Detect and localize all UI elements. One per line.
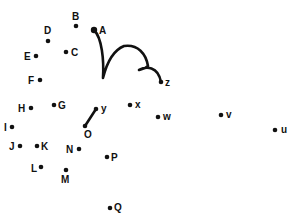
dot-label: E	[24, 51, 31, 62]
dot-u[interactable]: u	[273, 124, 287, 135]
dot-O[interactable]: O	[83, 124, 92, 140]
dot-marker[interactable]	[34, 54, 39, 59]
dot-marker[interactable]	[128, 103, 133, 108]
dot-puzzle-canvas: ABCDEFGHIJKLMNOPQxywvuz	[0, 0, 303, 221]
dot-marker[interactable]	[105, 155, 110, 160]
dot-marker[interactable]	[156, 115, 161, 120]
dot-marker[interactable]	[159, 80, 164, 85]
dot-marker[interactable]	[18, 144, 23, 149]
dot-marker[interactable]	[91, 27, 97, 33]
dot-label: G	[58, 100, 66, 111]
dot-label: N	[66, 144, 73, 155]
dot-label: w	[162, 111, 171, 122]
drawn-lines	[85, 30, 161, 126]
dot-G[interactable]: G	[52, 100, 66, 111]
dot-label: O	[84, 129, 92, 140]
dot-label: K	[41, 141, 49, 152]
dot-B[interactable]: B	[72, 11, 79, 28]
dot-marker[interactable]	[35, 144, 40, 149]
dot-L[interactable]: L	[31, 163, 43, 174]
dot-A[interactable]: A	[91, 25, 106, 36]
dot-marker[interactable]	[83, 124, 88, 129]
dot-M[interactable]: M	[61, 168, 69, 185]
dot-label: M	[61, 174, 69, 185]
dot-label: v	[226, 109, 232, 120]
dot-label: B	[72, 11, 79, 22]
drawn-line-y-O	[85, 109, 96, 126]
dot-marker[interactable]	[94, 107, 99, 112]
puzzle-dots: ABCDEFGHIJKLMNOPQxywvuz	[4, 11, 287, 213]
dot-D[interactable]: D	[44, 25, 51, 43]
dot-marker[interactable]	[273, 128, 278, 133]
dot-marker[interactable]	[64, 168, 69, 173]
dot-v[interactable]: v	[219, 109, 232, 120]
dot-x[interactable]: x	[128, 99, 141, 110]
dot-label: H	[18, 103, 25, 114]
dot-marker[interactable]	[39, 165, 44, 170]
dot-J[interactable]: J	[9, 141, 22, 152]
dot-marker[interactable]	[52, 103, 57, 108]
dot-marker[interactable]	[29, 106, 34, 111]
dot-P[interactable]: P	[105, 152, 118, 163]
dot-label: x	[135, 99, 141, 110]
dot-Q[interactable]: Q	[108, 202, 122, 213]
dot-marker[interactable]	[46, 39, 51, 44]
dot-label: J	[9, 141, 15, 152]
dot-w[interactable]: w	[156, 111, 171, 122]
dot-label: y	[101, 103, 107, 114]
dot-marker[interactable]	[10, 125, 15, 130]
dot-marker[interactable]	[219, 113, 224, 118]
dot-label: L	[31, 163, 37, 174]
dot-F[interactable]: F	[28, 75, 42, 86]
dot-label: A	[99, 25, 106, 36]
dot-E[interactable]: E	[24, 51, 38, 62]
dot-C[interactable]: C	[64, 47, 79, 58]
dot-marker[interactable]	[108, 206, 113, 211]
dot-K[interactable]: K	[35, 141, 49, 152]
dot-label: P	[111, 152, 118, 163]
dot-label: Q	[114, 202, 122, 213]
dot-N[interactable]: N	[66, 144, 81, 155]
dot-H[interactable]: H	[18, 103, 33, 114]
dot-label: u	[281, 124, 287, 135]
dot-marker[interactable]	[74, 24, 79, 29]
dot-y[interactable]: y	[94, 103, 107, 114]
dot-marker[interactable]	[38, 78, 43, 83]
dot-label: C	[71, 47, 78, 58]
dot-marker[interactable]	[77, 147, 82, 152]
dot-marker[interactable]	[64, 50, 69, 55]
dot-label: I	[4, 122, 7, 133]
dot-label: D	[44, 25, 51, 36]
drawn-line-A-z	[94, 30, 161, 82]
dot-I[interactable]: I	[4, 122, 14, 133]
dot-label: z	[165, 77, 170, 88]
dot-label: F	[28, 75, 34, 86]
